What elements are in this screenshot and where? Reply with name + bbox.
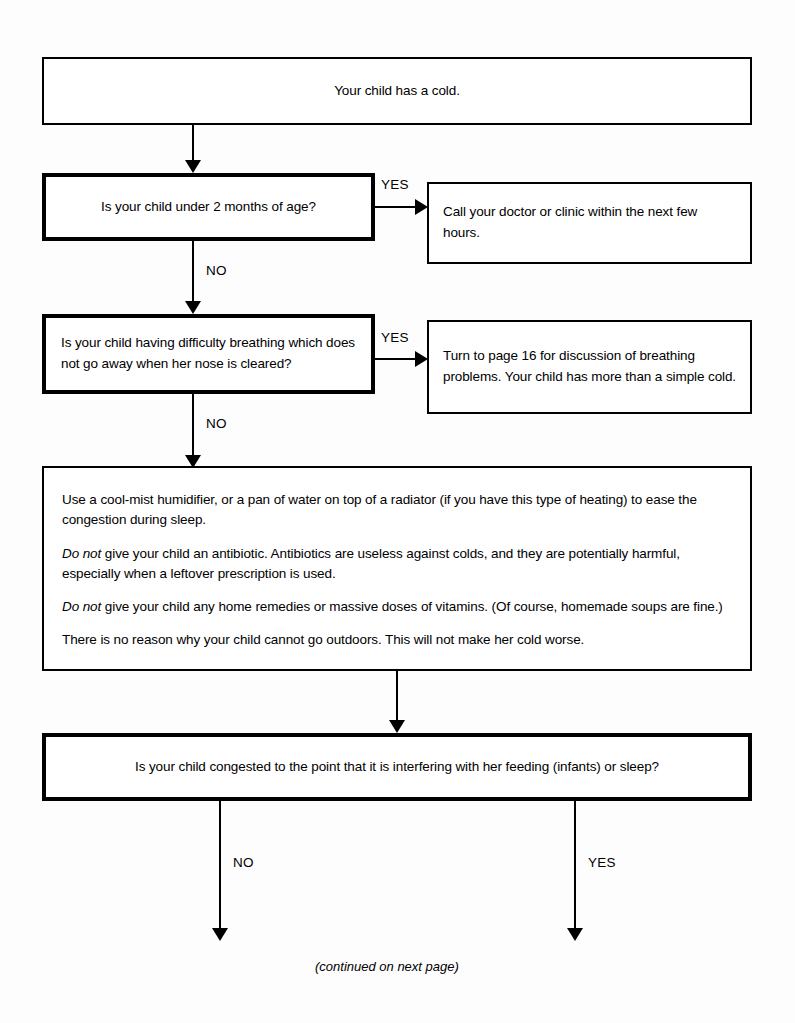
arrowhead-down-decision1 (185, 160, 201, 173)
advice-home-care: Use a cool-mist humidifier, or a pan of … (42, 466, 752, 671)
outcome-call-doctor: Call your doctor or clinic within the ne… (427, 182, 752, 264)
decision-label: Is your child having difficulty breathin… (61, 333, 356, 375)
node-your-child-has-a-cold: Your child has a cold. (42, 57, 752, 125)
advice-paragraph-4-text: There is no reason why your child cannot… (62, 632, 584, 647)
flowchart-page: Your child has a cold. Is your child und… (0, 0, 795, 1023)
edge-label-decision3-no: NO (233, 855, 254, 870)
continued-on-next-page-note: (continued on next page) (315, 959, 459, 974)
advice-paragraph-3-text: give your child any home remedies or mas… (101, 599, 723, 614)
edge-label-decision1-yes: YES (381, 177, 409, 192)
edge-label-decision2-no: NO (206, 416, 227, 431)
edge-label-decision2-yes: YES (381, 330, 409, 345)
advice-paragraph-1: Use a cool-mist humidifier, or a pan of … (62, 490, 732, 531)
edge-label-decision1-no: NO (206, 263, 227, 278)
advice-paragraph-4: There is no reason why your child cannot… (62, 630, 732, 650)
advice-paragraphs: Use a cool-mist humidifier, or a pan of … (62, 490, 732, 651)
edge-label-decision3-yes: YES (588, 855, 616, 870)
advice-paragraph-3: Do not give your child any home remedies… (62, 597, 732, 617)
arrowhead-down-decision3 (389, 720, 405, 733)
connector-decision3-no (219, 801, 221, 935)
decision-under-2-months: Is your child under 2 months of age? (42, 173, 375, 241)
connector-decision2-no (192, 394, 194, 462)
advice-paragraph-2-text: give your child an antibiotic. Antibioti… (62, 546, 680, 581)
connector-decision1-no (192, 241, 194, 308)
connector-decision2-yes (375, 358, 420, 360)
arrowhead-down-no-next-page (212, 928, 228, 941)
outcome-turn-to-page-16: Turn to page 16 for discussion of breath… (427, 320, 752, 414)
advice-paragraph-3-emphasis: Do not (62, 599, 101, 614)
arrowhead-down-yes-next-page (567, 928, 583, 941)
outcome-label: Call your doctor or clinic within the ne… (443, 202, 736, 244)
decision-label: Is your child under 2 months of age? (101, 197, 316, 218)
arrowhead-down-decision2 (185, 301, 201, 314)
outcome-label: Turn to page 16 for discussion of breath… (443, 346, 736, 388)
connector-decision1-yes (375, 206, 420, 208)
advice-paragraph-2: Do not give your child an antibiotic. An… (62, 544, 732, 585)
decision-difficulty-breathing: Is your child having difficulty breathin… (42, 314, 375, 394)
advice-paragraph-2-emphasis: Do not (62, 546, 101, 561)
advice-paragraph-1-text: Use a cool-mist humidifier, or a pan of … (62, 492, 697, 527)
connector-advice-to-decision3 (396, 671, 398, 727)
connector-decision3-yes (574, 801, 576, 935)
decision-label: Is your child congested to the point tha… (135, 757, 659, 778)
node-label: Your child has a cold. (334, 81, 460, 102)
decision-congestion-interfering: Is your child congested to the point tha… (42, 733, 752, 801)
